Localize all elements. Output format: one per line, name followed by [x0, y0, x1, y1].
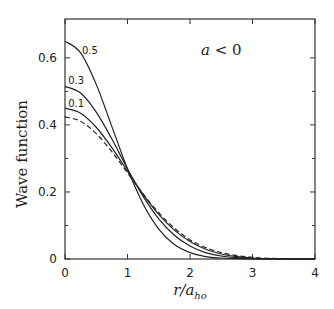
x-tick-label: 3 — [249, 266, 257, 280]
x-axis-title: r/aho — [173, 281, 207, 301]
y-axis-title: Wave function — [13, 100, 31, 208]
y-tick-label: 0 — [49, 252, 57, 266]
curve-label: 0.5 — [82, 45, 98, 56]
y-tick-label: 0.4 — [38, 118, 57, 132]
axis-ticks — [65, 19, 315, 259]
x-tick-label: 0 — [61, 266, 69, 280]
x-axis-title-main: r/a — [173, 281, 194, 299]
curve-0-5 — [65, 41, 315, 259]
curve-label: 0.1 — [68, 98, 84, 109]
x-tick-label: 2 — [186, 266, 194, 280]
curve-0-ideal-gas — [65, 117, 315, 259]
x-axis-title-subscript: ho — [194, 290, 206, 301]
plot-area-border — [65, 19, 315, 259]
curve-0-1 — [65, 108, 315, 259]
y-tick-label: 0.2 — [38, 185, 57, 199]
x-tick-label: 4 — [311, 266, 319, 280]
curves — [65, 41, 315, 259]
curve-0-3 — [65, 86, 315, 259]
wave-function-chart: 0123400.20.40.6 0.50.30.1 a < 0 r/aho Wa… — [0, 0, 334, 309]
x-tick-label: 1 — [124, 266, 132, 280]
plot-frame — [65, 19, 315, 259]
annotation-a-less-than-zero: a < 0 — [201, 41, 242, 59]
y-tick-label: 0.6 — [38, 51, 57, 65]
curve-label: 0.3 — [68, 75, 84, 86]
